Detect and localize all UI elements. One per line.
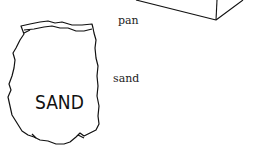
- bag-label-text: SAND: [35, 91, 84, 113]
- sand-bag-icon: [8, 21, 99, 144]
- illustration-canvas: SAND pan sand: [0, 0, 273, 153]
- pan-box-icon: [136, 0, 243, 20]
- pan-caption: pan: [118, 15, 139, 26]
- sand-caption: sand: [113, 73, 139, 84]
